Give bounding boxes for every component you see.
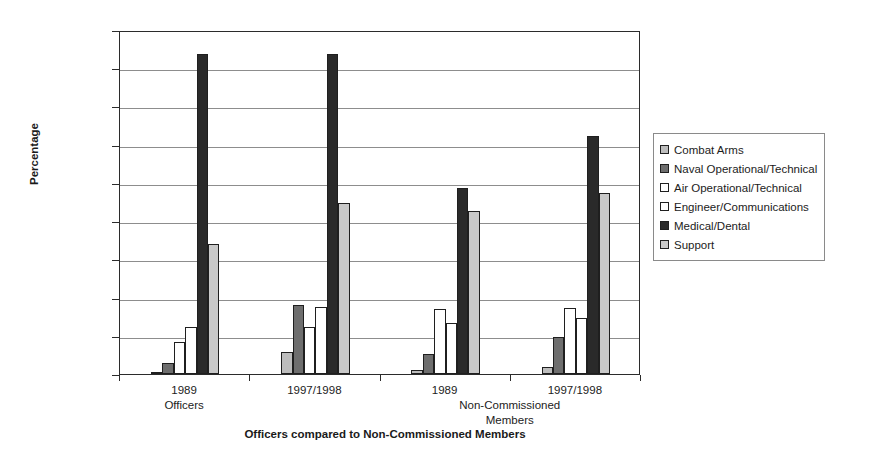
bar-group (511, 32, 641, 374)
y-tick-mark (112, 184, 119, 185)
legend-item[interactable]: Combat Arms (660, 140, 817, 159)
bar (564, 308, 575, 375)
bar (304, 327, 315, 374)
x-tick-mark (510, 375, 511, 381)
legend-item[interactable]: Naval Operational/Technical (660, 159, 817, 178)
chart-legend: Combat ArmsNaval Operational/TechnicalAi… (653, 133, 825, 261)
bars-layer (120, 32, 639, 374)
legend-swatch-icon (660, 240, 669, 249)
y-tick-mark (112, 375, 119, 376)
bar (327, 54, 338, 374)
bar (599, 193, 610, 374)
bar (446, 323, 457, 374)
legend-swatch-icon (660, 183, 669, 192)
x-category-label: 1997/1998 (515, 383, 635, 398)
legend-item[interactable]: Medical/Dental (660, 216, 817, 235)
legend-item[interactable]: Support (660, 235, 817, 254)
y-tick-mark (112, 31, 119, 32)
x-tick-mark (380, 375, 381, 381)
x-group-label-line: Non-Commissioned (420, 398, 600, 413)
bar-chart: Percentage 0.00%5.00%10.00%15.00%20.00%2… (0, 0, 893, 457)
legend-swatch-icon (660, 145, 669, 154)
legend-label: Engineer/Communications (674, 201, 809, 213)
bar-group (250, 32, 380, 374)
legend-swatch-icon (660, 164, 669, 173)
y-tick-mark (112, 107, 119, 108)
bar (468, 211, 479, 374)
bar (587, 136, 598, 375)
bar (423, 354, 434, 374)
x-group-label-line: Officers (94, 398, 274, 413)
legend-label: Support (674, 239, 714, 251)
legend-swatch-icon (660, 221, 669, 230)
bar (553, 337, 564, 374)
x-category-label: 1997/1998 (254, 383, 374, 398)
y-tick-mark (112, 69, 119, 70)
bar (185, 327, 196, 374)
legend-label: Medical/Dental (674, 220, 750, 232)
legend-label: Air Operational/Technical (674, 182, 802, 194)
bar (174, 342, 185, 374)
x-category-label: 1989 (385, 383, 505, 398)
bar (197, 54, 208, 374)
bar (151, 372, 162, 374)
bar (434, 309, 445, 374)
bar (411, 370, 422, 374)
x-group-label: Officers (94, 398, 274, 413)
bar (338, 203, 349, 374)
x-tick-mark (119, 375, 120, 381)
bar (315, 307, 326, 374)
x-tick-mark (249, 375, 250, 381)
bar-group (120, 32, 250, 374)
legend-label: Naval Operational/Technical (674, 163, 817, 175)
bar-group (381, 32, 511, 374)
plot-area (119, 31, 640, 375)
legend-swatch-icon (660, 202, 669, 211)
y-tick-mark (112, 146, 119, 147)
bar (208, 244, 219, 374)
legend-label: Combat Arms (674, 144, 744, 156)
x-group-label: Non-CommissionedMembers (420, 398, 600, 428)
y-tick-mark (112, 222, 119, 223)
bar (542, 367, 553, 374)
legend-item[interactable]: Air Operational/Technical (660, 178, 817, 197)
y-tick-mark (112, 337, 119, 338)
bar (162, 363, 173, 374)
x-category-label: 1989 (124, 383, 244, 398)
y-tick-mark (112, 299, 119, 300)
bar (293, 305, 304, 374)
y-tick-mark (112, 260, 119, 261)
y-axis-ticks: 0.00%5.00%10.00%15.00%20.00%25.00%30.00%… (0, 0, 119, 457)
x-group-label-line: Members (420, 413, 600, 428)
legend-item[interactable]: Engineer/Communications (660, 197, 817, 216)
bar (576, 318, 587, 374)
bar (457, 188, 468, 374)
x-axis-title: Officers compared to Non-Commissioned Me… (0, 428, 770, 440)
x-tick-mark (640, 375, 641, 381)
bar (281, 352, 292, 374)
